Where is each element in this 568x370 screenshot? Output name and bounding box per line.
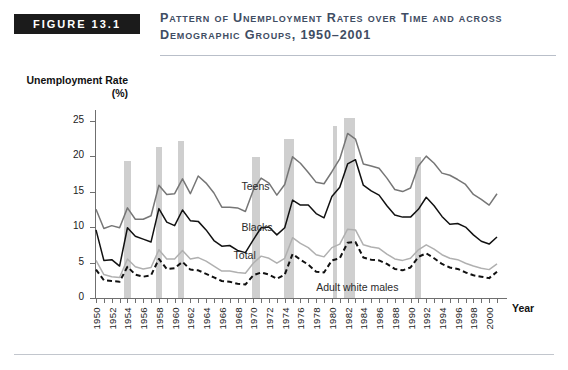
x-tick-mark bbox=[261, 298, 262, 303]
x-tick-label: 1988 bbox=[390, 307, 401, 330]
x-tick-mark bbox=[387, 298, 388, 303]
x-tick-mark bbox=[135, 298, 136, 303]
series-label-adult-white-males: Adult white males bbox=[316, 281, 398, 293]
x-tick-mark bbox=[308, 298, 309, 303]
x-tick-mark bbox=[127, 298, 128, 303]
series-label-blacks: Blacks bbox=[241, 221, 272, 233]
x-tick-mark bbox=[348, 298, 349, 303]
x-tick-mark bbox=[442, 298, 443, 303]
x-tick-mark bbox=[293, 298, 294, 303]
x-tick-label: 1956 bbox=[138, 307, 149, 330]
x-tick-mark bbox=[403, 298, 404, 303]
x-tick-label: 1996 bbox=[453, 307, 464, 330]
x-tick-mark bbox=[379, 298, 380, 303]
x-tick-label: 1990 bbox=[406, 307, 417, 330]
x-tick-mark bbox=[167, 298, 168, 303]
x-tick-label: 1976 bbox=[295, 307, 306, 330]
x-tick-label: 1972 bbox=[264, 307, 275, 330]
figure-container: FIGURE 13.1 Pattern of Unemployment Rate… bbox=[0, 0, 568, 370]
x-tick-mark bbox=[182, 298, 183, 303]
x-tick-mark bbox=[340, 298, 341, 303]
x-tick-label: 1994 bbox=[437, 307, 448, 330]
x-tick-mark bbox=[222, 298, 223, 303]
x-tick-label: 1992 bbox=[421, 307, 432, 330]
figure-number-badge: FIGURE 13.1 bbox=[14, 14, 140, 34]
x-tick-mark bbox=[458, 298, 459, 303]
series-line-teens bbox=[96, 133, 497, 228]
x-tick-label: 1952 bbox=[107, 307, 118, 330]
x-tick-mark bbox=[497, 298, 498, 303]
x-tick-mark bbox=[245, 298, 246, 303]
x-tick-mark bbox=[151, 298, 152, 303]
x-axis-title: Year bbox=[512, 302, 534, 314]
x-tick-label: 1998 bbox=[468, 307, 479, 330]
y-tick-label: 0 bbox=[58, 291, 84, 302]
x-tick-label: 1984 bbox=[358, 307, 369, 330]
x-tick-mark bbox=[277, 298, 278, 303]
x-tick-mark bbox=[206, 298, 207, 303]
x-tick-label: 1964 bbox=[201, 307, 212, 330]
x-tick-mark bbox=[316, 298, 317, 303]
footer-divider bbox=[14, 354, 554, 355]
x-tick-label: 1986 bbox=[374, 307, 385, 330]
x-tick-mark bbox=[120, 298, 121, 303]
x-tick-mark bbox=[466, 298, 467, 303]
x-tick-mark bbox=[96, 298, 97, 303]
x-tick-mark bbox=[190, 298, 191, 303]
x-tick-mark bbox=[175, 298, 176, 303]
y-tick-label: 25 bbox=[58, 114, 84, 125]
x-tick-label: 1980 bbox=[327, 307, 338, 330]
y-tick-label: 5 bbox=[58, 256, 84, 267]
title-divider bbox=[160, 55, 556, 56]
x-tick-mark bbox=[198, 298, 199, 303]
x-tick-label: 1974 bbox=[280, 307, 291, 330]
x-tick-label: 1982 bbox=[343, 307, 354, 330]
x-tick-label: 1960 bbox=[170, 307, 181, 330]
x-tick-label: 1962 bbox=[185, 307, 196, 330]
x-tick-mark bbox=[371, 298, 372, 303]
x-tick-mark bbox=[104, 298, 105, 303]
page-title: Pattern of Unemployment Rates over Time … bbox=[160, 10, 556, 44]
x-tick-label: 1950 bbox=[91, 307, 102, 330]
x-tick-mark bbox=[434, 298, 435, 303]
x-tick-mark bbox=[214, 298, 215, 303]
series-label-teens: Teens bbox=[241, 180, 269, 192]
x-tick-mark bbox=[426, 298, 427, 303]
y-tick-label: 20 bbox=[58, 149, 84, 160]
x-tick-mark bbox=[159, 298, 160, 303]
series-plot bbox=[96, 110, 497, 298]
x-tick-mark bbox=[324, 298, 325, 303]
x-tick-mark bbox=[230, 298, 231, 303]
x-tick-mark bbox=[489, 298, 490, 303]
figure-title-wrap: Pattern of Unemployment Rates over Time … bbox=[160, 10, 556, 44]
figure-header: FIGURE 13.1 Pattern of Unemployment Rate… bbox=[0, 0, 568, 62]
x-tick-label: 1966 bbox=[217, 307, 228, 330]
x-tick-label: 1958 bbox=[154, 307, 165, 330]
x-tick-mark bbox=[418, 298, 419, 303]
x-tick-mark bbox=[143, 298, 144, 303]
x-tick-mark bbox=[332, 298, 333, 303]
x-tick-mark bbox=[285, 298, 286, 303]
x-tick-mark bbox=[481, 298, 482, 303]
x-tick-label: 1954 bbox=[122, 307, 133, 330]
y-tick-label: 15 bbox=[58, 185, 84, 196]
x-tick-mark bbox=[473, 298, 474, 303]
chart-area: Unemployment Rate (%) 0510152025 1950195… bbox=[0, 62, 568, 332]
x-tick-label: 2000 bbox=[484, 307, 495, 330]
y-axis-title: Unemployment Rate (%) bbox=[16, 74, 128, 99]
x-tick-label: 1978 bbox=[311, 307, 322, 330]
x-tick-mark bbox=[300, 298, 301, 303]
series-line-adult-white-males bbox=[96, 242, 497, 285]
x-tick-label: 1970 bbox=[248, 307, 259, 330]
x-tick-mark bbox=[112, 298, 113, 303]
x-tick-mark bbox=[238, 298, 239, 303]
y-tick-label: 10 bbox=[58, 220, 84, 231]
x-tick-mark bbox=[355, 298, 356, 303]
x-tick-mark bbox=[363, 298, 364, 303]
x-tick-mark bbox=[411, 298, 412, 303]
x-tick-mark bbox=[269, 298, 270, 303]
series-label-total: Total bbox=[234, 249, 256, 261]
x-tick-label: 1968 bbox=[233, 307, 244, 330]
x-tick-mark bbox=[450, 298, 451, 303]
x-tick-mark bbox=[253, 298, 254, 303]
